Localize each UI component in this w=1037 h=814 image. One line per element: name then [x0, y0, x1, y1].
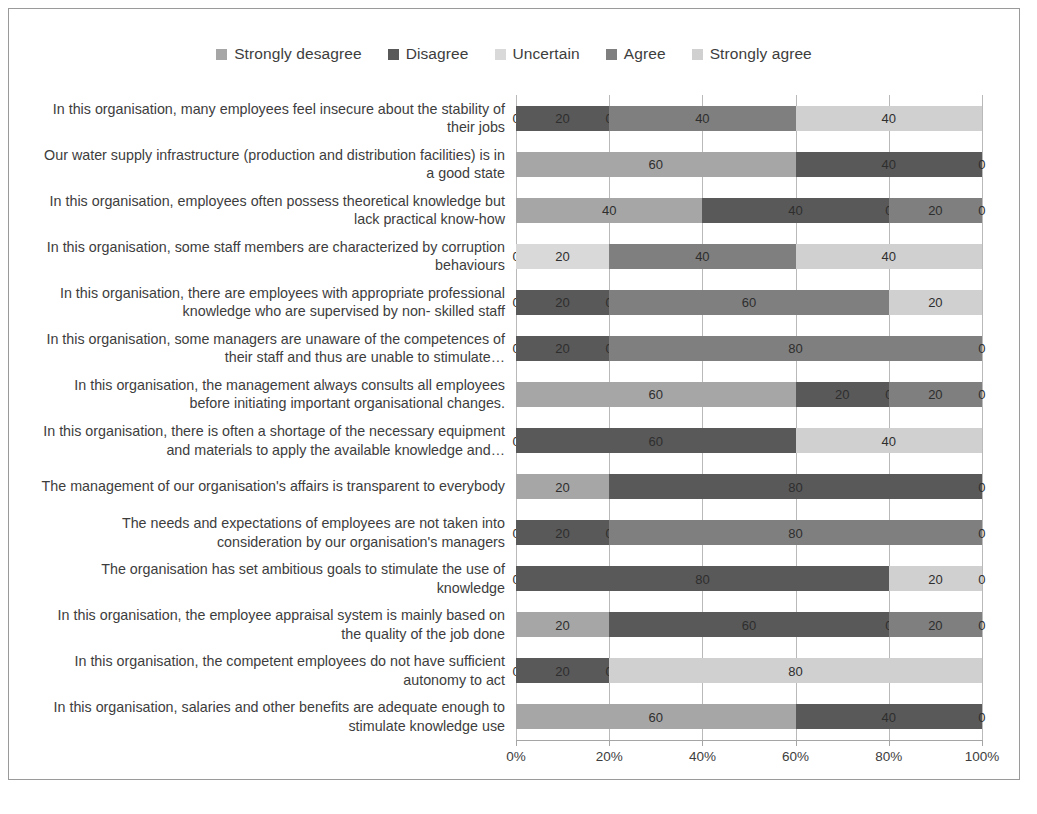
bar-value-label: 20	[889, 388, 982, 401]
bar-segment[interactable]: 20	[516, 244, 609, 269]
bar-value-label: 40	[796, 250, 982, 263]
bar-value-label: 20	[516, 296, 609, 309]
gridline	[609, 95, 610, 740]
stacked-bar[interactable]: 0200800	[516, 336, 982, 361]
bar-segment[interactable]: 80	[609, 520, 982, 545]
gridline	[796, 95, 797, 740]
bar-segment[interactable]: 40	[796, 152, 982, 177]
legend-label: Disagree	[406, 45, 469, 63]
bar-segment[interactable]: 60	[609, 612, 889, 637]
bar-segment[interactable]: 40	[609, 106, 795, 131]
legend-item[interactable]: Strongly agree	[692, 45, 812, 63]
bar-segment[interactable]: 80	[516, 566, 889, 591]
stacked-bar[interactable]: 60400	[516, 704, 982, 729]
legend-label: Strongly agree	[710, 45, 812, 63]
gridline	[889, 95, 890, 740]
category-label: Our water supply infrastructure (product…	[35, 146, 505, 183]
bar-segment[interactable]: 20	[889, 382, 982, 407]
stacked-bar[interactable]: 020080	[516, 658, 982, 683]
bar-segment[interactable]: 20	[889, 612, 982, 637]
bar-segment[interactable]: 80	[609, 658, 982, 683]
bar-segment[interactable]: 20	[516, 106, 609, 131]
stacked-bar[interactable]: 06040	[516, 428, 982, 453]
stacked-bar[interactable]: 60200200	[516, 382, 982, 407]
x-axis-tick-mark	[702, 740, 703, 746]
category-label: In this organisation, many employees fee…	[35, 100, 505, 137]
x-axis-tick-label: 80%	[859, 749, 919, 764]
category-label: The management of our organisation's aff…	[35, 477, 505, 496]
legend-item[interactable]: Uncertain	[495, 45, 580, 63]
bar-segment[interactable]: 60	[516, 152, 796, 177]
bar-segment[interactable]: 60	[516, 428, 796, 453]
bar-segment[interactable]: 40	[796, 704, 982, 729]
legend-swatch-icon	[388, 49, 399, 60]
bars-area: 0200404060400404002000204040020060200200…	[516, 95, 982, 740]
category-label: In this organisation, the competent empl…	[35, 652, 505, 689]
bar-segment[interactable]: 20	[516, 474, 609, 499]
category-label: In this organisation, there is often a s…	[35, 422, 505, 459]
legend-swatch-icon	[216, 49, 227, 60]
stacked-bar[interactable]: 60400	[516, 152, 982, 177]
gridline	[702, 95, 703, 740]
x-axis-tick-label: 100%	[952, 749, 1012, 764]
legend-item[interactable]: Agree	[606, 45, 666, 63]
bar-value-label: 60	[609, 618, 889, 631]
stacked-bar[interactable]: 02006020	[516, 290, 982, 315]
bar-segment[interactable]: 40	[796, 244, 982, 269]
bar-value-label: 20	[516, 342, 609, 355]
bar-value-label: 60	[609, 296, 889, 309]
gridline	[516, 95, 517, 740]
bar-segment[interactable]: 20	[516, 658, 609, 683]
category-labels: In this organisation, many employees fee…	[27, 95, 511, 740]
stacked-bar[interactable]: 40400200	[516, 198, 982, 223]
bar-segment[interactable]: 40	[516, 198, 702, 223]
bar-segment[interactable]: 20	[889, 198, 982, 223]
bar-segment[interactable]: 20	[516, 336, 609, 361]
bar-value-label: 20	[516, 250, 609, 263]
stacked-bar[interactable]: 0200800	[516, 520, 982, 545]
bar-value-label: 60	[516, 434, 796, 447]
stacked-bar[interactable]: 0204040	[516, 244, 982, 269]
bar-segment[interactable]: 20	[796, 382, 889, 407]
x-axis: 0%20%40%60%80%100%	[516, 740, 982, 770]
x-axis-tick-mark	[609, 740, 610, 746]
bar-value-label: 20	[889, 204, 982, 217]
bar-value-label: 60	[516, 710, 796, 723]
x-axis-tick-mark	[796, 740, 797, 746]
category-label: In this organisation, the management alw…	[35, 376, 505, 413]
stacked-bar[interactable]: 080200	[516, 566, 982, 591]
category-label: The organisation has set ambitious goals…	[35, 560, 505, 597]
bar-value-label: 20	[516, 618, 609, 631]
bar-segment[interactable]: 60	[516, 704, 796, 729]
bar-segment[interactable]: 40	[796, 428, 982, 453]
bar-segment[interactable]: 40	[609, 244, 795, 269]
bar-segment[interactable]: 20	[889, 290, 982, 315]
bar-value-label: 40	[702, 204, 888, 217]
bar-value-label: 20	[516, 526, 609, 539]
category-label: In this organisation, some managers are …	[35, 330, 505, 367]
bar-value-label: 80	[609, 342, 982, 355]
bar-value-label: 40	[516, 204, 702, 217]
gridline	[982, 95, 983, 740]
bar-segment[interactable]: 20	[516, 290, 609, 315]
stacked-bar[interactable]: 20600200	[516, 612, 982, 637]
bar-segment[interactable]: 80	[609, 336, 982, 361]
bar-segment[interactable]: 40	[702, 198, 888, 223]
legend-swatch-icon	[606, 49, 617, 60]
legend-item[interactable]: Strongly desagree	[216, 45, 362, 63]
bar-segment[interactable]: 60	[609, 290, 889, 315]
bar-value-label: 40	[796, 158, 982, 171]
legend-item[interactable]: Disagree	[388, 45, 469, 63]
category-label: In this organisation, there are employee…	[35, 284, 505, 321]
bar-segment[interactable]: 20	[516, 520, 609, 545]
bar-segment[interactable]: 20	[516, 612, 609, 637]
bar-segment[interactable]: 20	[889, 566, 982, 591]
bar-value-label: 40	[609, 250, 795, 263]
stacked-bar[interactable]: 20800	[516, 474, 982, 499]
bar-segment[interactable]: 80	[609, 474, 982, 499]
bar-segment[interactable]: 40	[796, 106, 982, 131]
x-axis-tick-label: 20%	[579, 749, 639, 764]
stacked-bar[interactable]: 02004040	[516, 106, 982, 131]
x-axis-tick-mark	[516, 740, 517, 746]
bar-segment[interactable]: 60	[516, 382, 796, 407]
